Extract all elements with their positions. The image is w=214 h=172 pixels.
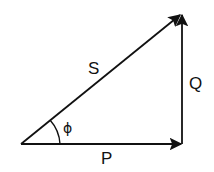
label-phi-angle: ϕ [63, 120, 72, 136]
label-p: P [101, 149, 112, 168]
vector-triangle-diagram: S Q P ϕ [0, 0, 214, 172]
angle-phi-arc [50, 120, 60, 144]
vector-s-arrow [21, 15, 180, 144]
label-q: Q [189, 74, 202, 93]
label-s: S [88, 59, 99, 78]
